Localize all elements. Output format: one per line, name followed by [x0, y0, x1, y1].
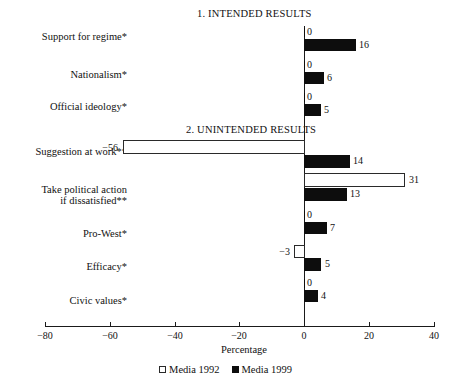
x-axis-tick--40 [175, 322, 176, 326]
value-label-take-political-action-1999: 13 [350, 188, 360, 199]
x-axis-label-0: 0 [284, 330, 324, 341]
value-label-suggestion-at-work-1999: 14 [353, 155, 363, 166]
section-title-unintended: 2. UNINTENDED RESULTS [186, 124, 316, 135]
legend-label-media-1992: Media 1992 [169, 364, 219, 375]
x-axis-label--20: −20 [219, 330, 259, 341]
x-axis-tick--80 [45, 322, 46, 326]
value-label-efficacy-1992: −3 [252, 246, 290, 257]
category-label-take-political-action-line2: if dissatisfied** [0, 195, 127, 207]
value-label-support-for-regime-1992: 0 [307, 26, 312, 37]
x-axis-label--60: −60 [90, 330, 130, 341]
category-label-civic-values: Civic values* [0, 295, 127, 307]
x-axis-tick-0 [304, 322, 305, 326]
bar-suggestion-at-work-1999 [304, 155, 350, 168]
category-label-support-for-regime: Support for regime* [0, 31, 127, 43]
x-axis-tick-40 [434, 322, 435, 326]
legend: Media 1992Media 1999 [0, 364, 451, 375]
value-label-suggestion-at-work-1992: −56 [78, 142, 118, 153]
x-axis-tick--60 [110, 322, 111, 326]
category-label-nationalism: Nationalism* [0, 69, 127, 81]
value-label-pro-west-1992: 0 [307, 209, 312, 220]
x-axis-label-20: 20 [349, 330, 389, 341]
bar-efficacy-1999 [304, 258, 321, 271]
bar-official-ideology-1999 [304, 104, 321, 116]
bar-pro-west-1992 [304, 211, 305, 220]
x-axis-tick--20 [239, 322, 240, 326]
bar-support-for-regime-1999 [304, 39, 356, 51]
category-label-official-ideology: Official ideology* [0, 101, 127, 113]
x-axis-tick-20 [369, 322, 370, 326]
bar-official-ideology-1992 [304, 93, 305, 102]
value-label-pro-west-1999: 7 [330, 222, 335, 233]
bar-nationalism-1992 [304, 61, 305, 70]
bar-take-political-action-1999 [304, 188, 347, 201]
x-axis-label--80: −80 [25, 330, 65, 341]
bar-civic-values-1992 [304, 279, 305, 288]
x-axis-label--40: −40 [155, 330, 195, 341]
legend-item-media-1992: Media 1992 [159, 364, 219, 375]
x-axis-line [45, 326, 435, 327]
category-label-efficacy: Efficacy* [0, 261, 127, 273]
value-label-take-political-action-1992: 31 [409, 174, 419, 185]
legend-item-media-1999: Media 1999 [232, 364, 292, 375]
bar-suggestion-at-work-1992 [123, 140, 305, 154]
value-label-nationalism-1992: 0 [307, 59, 312, 70]
value-label-official-ideology-1999: 5 [324, 104, 329, 115]
bar-efficacy-1992 [294, 245, 305, 258]
value-label-civic-values-1999: 4 [321, 290, 326, 301]
value-label-civic-values-1992: 0 [307, 277, 312, 288]
section-title-intended: 1. INTENDED RESULTS [197, 8, 312, 19]
value-label-nationalism-1999: 6 [327, 72, 332, 83]
legend-label-media-1999: Media 1999 [242, 364, 292, 375]
category-label-take-political-action-line1: Take political action [0, 184, 127, 196]
category-label-pro-west: Pro-West* [0, 228, 127, 240]
bar-support-for-regime-1992 [304, 28, 305, 37]
bar-nationalism-1999 [304, 72, 324, 84]
x-axis-label-40: 40 [414, 330, 451, 341]
value-label-efficacy-1999: 5 [325, 258, 330, 269]
legend-swatch-white-icon [159, 366, 166, 373]
chart-canvas: 1. INTENDED RESULTS 2. UNINTENDED RESULT… [0, 0, 451, 392]
x-axis-title: Percentage [184, 344, 304, 355]
bar-take-political-action-1992 [304, 173, 405, 187]
value-label-support-for-regime-1999: 16 [359, 39, 369, 50]
value-label-official-ideology-1992: 0 [307, 91, 312, 102]
bar-civic-values-1999 [304, 290, 318, 302]
legend-swatch-black-icon [232, 366, 239, 373]
bar-pro-west-1999 [304, 222, 327, 234]
